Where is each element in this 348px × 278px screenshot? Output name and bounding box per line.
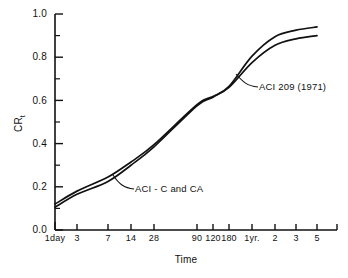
y-tick-label-2: 0.4 (14, 138, 47, 149)
y-axis-title-text: CR (13, 117, 24, 132)
y-tick-label-1: 0.2 (14, 181, 47, 192)
y-axis-title-subscript: t (19, 115, 26, 117)
x-axis-ticks (55, 222, 337, 230)
series-line-aci-209 (55, 27, 317, 207)
x-tick-label-11: 5 (305, 233, 329, 243)
y-tick-label-4: 0.8 (14, 51, 47, 62)
annotation-label-aci-209: ACI 209 (1971) (259, 81, 326, 92)
x-tick-label-1: 3 (65, 233, 89, 243)
x-tick-label-3: 14 (119, 233, 143, 243)
y-axis-title: CRt (13, 115, 26, 132)
y-tick-label-5: 1.0 (14, 8, 47, 19)
x-tick-label-4: 28 (142, 233, 166, 243)
x-tick-label-2: 7 (96, 233, 120, 243)
x-axis-title: Time (156, 254, 216, 265)
x-tick-label-8: 1yr. (238, 233, 266, 243)
series-line-aci-c-and-ca (55, 36, 317, 204)
y-tick-label-3: 0.6 (14, 95, 47, 106)
chart-container: 0.0 0.2 0.4 0.6 0.8 1.0 CRt 1day 3 7 14 … (0, 0, 348, 278)
annotation-label-aci-c-and-ca: ACI - C and CA (135, 183, 203, 194)
